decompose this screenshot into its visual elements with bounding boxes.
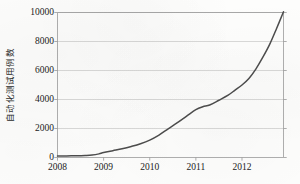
x-axis-tick-label: 2008: [48, 163, 67, 173]
x-axis-tick-label: 2010: [140, 163, 159, 173]
x-axis-tick-labels: 20082009201020112012: [0, 0, 300, 184]
x-axis-tick-label: 2009: [94, 163, 113, 173]
chart-figure: 自动化测试用例数 0200040006000800010000 20082009…: [0, 0, 300, 184]
x-axis-tick-label: 2011: [187, 163, 206, 173]
x-axis-tick-label: 2012: [232, 163, 251, 173]
